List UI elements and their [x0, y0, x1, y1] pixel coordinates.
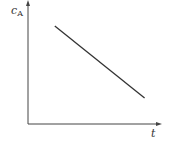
x-axis-label: t — [151, 128, 155, 139]
y-axis-arrow-icon — [26, 0, 30, 6]
x-axis-arrow-icon — [156, 122, 162, 126]
y-axis-label-subscript: A — [17, 9, 23, 18]
chart-plot-area — [0, 0, 170, 147]
data-line-c-a — [55, 26, 145, 98]
y-axis-label: cA — [11, 5, 23, 18]
